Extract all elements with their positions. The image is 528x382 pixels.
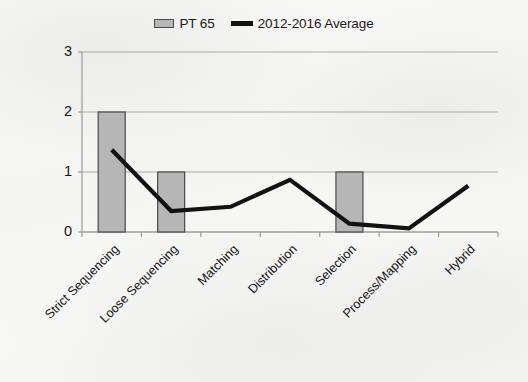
y-axis-tick-label-3: 3 <box>44 43 72 59</box>
y-axis-tick-label-1: 1 <box>44 163 72 179</box>
axis-lines-group <box>78 52 498 232</box>
y-axis-tick-label-0: 0 <box>44 223 72 239</box>
chart-plot-area <box>0 0 528 382</box>
chart-figure: PT 65 2012-2016 Average 0123 Strict Sequ… <box>0 0 528 382</box>
bar-strict-sequencing[interactable] <box>98 112 125 232</box>
x-tickmarks-group <box>82 232 498 237</box>
gridlines-group <box>82 52 498 232</box>
y-axis-tick-label-2: 2 <box>44 103 72 119</box>
